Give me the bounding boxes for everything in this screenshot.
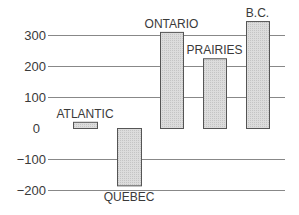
bar-bc [247, 22, 270, 129]
bar-label: PRAIRIES [186, 43, 242, 57]
bar-atlantic [74, 122, 98, 128]
y-tick-label: 200 [24, 59, 46, 74]
bar-quebec [118, 129, 142, 186]
y-tick-label: −200 [17, 183, 46, 198]
bar-label: ONTARIO [145, 17, 199, 31]
bar-ontario [161, 32, 184, 128]
bar-label: B.C. [246, 6, 269, 20]
y-tick-label: 0 [33, 121, 40, 136]
bar-chart: 3002001000−100−200 ATLANTICQUEBECONTARIO… [0, 0, 299, 215]
bar-label: ATLANTIC [56, 107, 113, 121]
bar-label: QUEBEC [104, 190, 155, 204]
y-tick-label: 100 [24, 90, 46, 105]
y-axis-tick-labels: 3002001000−100−200 [17, 28, 46, 198]
y-tick-label: 300 [24, 28, 46, 43]
bar-prairies [204, 59, 227, 129]
y-tick-label: −100 [17, 152, 46, 167]
